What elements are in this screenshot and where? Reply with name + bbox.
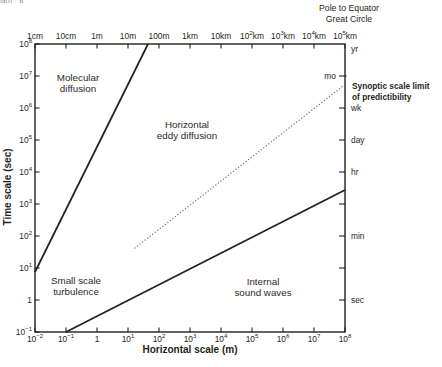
top-axis-tick-label: 100m [149, 31, 170, 41]
y-axis-tick-label: 105 [19, 134, 32, 145]
x-axis-tick-label: 10−2 [27, 333, 44, 344]
x-axis-tick-label: 10−1 [58, 333, 75, 344]
y-axis-tick-label: 102 [19, 230, 32, 241]
x-axis-tick-label: 107 [308, 333, 321, 344]
phenomena-label-text: stream [0, 0, 13, 5]
x-axis-tick-label: 104 [215, 333, 228, 344]
y-axis-tick-label: 103 [19, 198, 32, 209]
region-label: diffusion [60, 83, 96, 94]
x-axis-tick-label: 105 [246, 333, 259, 344]
region-label: turbulence [53, 286, 99, 297]
region-label: Internal [247, 276, 280, 287]
right-axis-tick-label: mo [324, 71, 336, 81]
synoptic-limit-note: Synoptic scale limit [352, 81, 430, 91]
right-axis-tick-label: sec [351, 295, 364, 305]
y-axis-title: Time scale (sec) [2, 148, 13, 225]
top-axis-tick-label: 10m [120, 31, 136, 41]
top-axis-tick-label: 10km [211, 31, 232, 41]
top-axis-tick-label: 102km [240, 30, 264, 41]
y-axis-tick-label: 108 [19, 38, 32, 49]
region-label: Horizontal [165, 119, 209, 130]
log-log-scale-chart: 10−210−111011021031041051061071081cm10cm… [0, 0, 442, 367]
series-phenomena-scale-line [135, 86, 343, 248]
top-axis-tick-label: 105km [333, 30, 357, 41]
scale-diagram-figure: 10−210−111011021031041051061071081cm10cm… [0, 0, 442, 367]
region-label: sound waves [234, 287, 291, 298]
region-label: Small scale [51, 275, 102, 286]
synoptic-limit-note: of predictibility [352, 92, 412, 102]
x-axis-tick-label: 102 [153, 333, 166, 344]
y-axis-tick-label: 1 [27, 295, 32, 305]
x-axis-tick-label: 106 [277, 333, 290, 344]
x-axis-tick-label: 108 [339, 333, 352, 344]
x-axis-tick-label: 101 [122, 333, 135, 344]
right-axis-tick-label: hr [351, 167, 359, 177]
region-label: eddy diffusion [157, 130, 217, 141]
y-axis-tick-label: 104 [19, 166, 32, 177]
y-axis-tick-label: 107 [19, 70, 32, 81]
series-internal-sound-waves-boundary [66, 190, 345, 332]
y-axis-tick-label: 101 [19, 262, 32, 273]
top-axis-tick-label: 103km [271, 30, 295, 41]
region-label: Molecular [57, 72, 100, 83]
top-axis-tick-label: 104km [302, 30, 326, 41]
top-axis-tick-label: 1m [91, 31, 103, 41]
pole-to-equator-note: Great Circle [326, 14, 373, 24]
right-axis-tick-label: yr [351, 44, 358, 54]
right-axis-tick-label: day [351, 135, 365, 145]
x-axis-title: Horizontal scale (m) [142, 344, 237, 355]
y-axis-tick-label: 106 [19, 102, 32, 113]
x-axis-tick-label: 103 [184, 333, 197, 344]
right-axis-tick-label: wk [350, 103, 362, 113]
pole-to-equator-note: Pole to Equator [319, 3, 379, 13]
top-axis-tick-label: 1km [182, 31, 198, 41]
top-axis-tick-label: 10cm [56, 31, 77, 41]
x-axis-tick-label: 1 [95, 334, 100, 344]
right-axis-tick-label: min [351, 231, 365, 241]
